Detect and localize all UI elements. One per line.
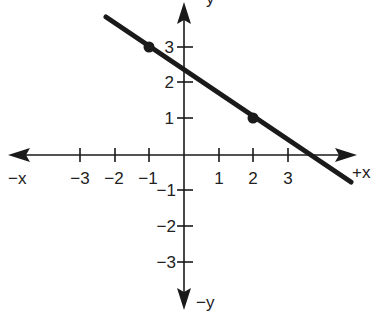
svg-text:−1: −1	[157, 181, 176, 200]
svg-text:−1: −1	[138, 169, 157, 188]
svg-text:1: 1	[214, 169, 223, 188]
svg-text:−2: −2	[157, 217, 176, 236]
plotted-line	[106, 17, 351, 182]
svg-text:2: 2	[165, 73, 174, 92]
svg-text:−3: −3	[157, 253, 176, 272]
svg-text:2: 2	[248, 169, 257, 188]
svg-text:3: 3	[165, 38, 174, 57]
svg-text:1: 1	[165, 109, 174, 128]
x-tick-labels: −3 −2 −1 1 2 3	[70, 169, 292, 188]
y-axis-pos-label: y	[206, 0, 215, 8]
x-axis-pos-label: +x	[352, 163, 371, 182]
svg-text:3: 3	[283, 169, 292, 188]
svg-text:−2: −2	[104, 169, 123, 188]
y-axis-neg-label: −y	[196, 293, 215, 312]
svg-text:−3: −3	[70, 169, 89, 188]
x-axis-neg-label: −x	[8, 169, 27, 188]
coordinate-plane: −3 −2 −1 1 2 3 3 2 1 −1 −2 −3 −x +x −y y	[0, 0, 392, 322]
point-neg1-3	[144, 42, 155, 53]
point-2-1	[248, 113, 259, 124]
